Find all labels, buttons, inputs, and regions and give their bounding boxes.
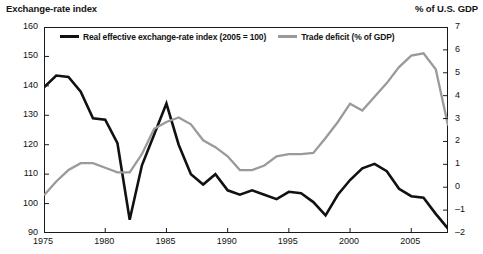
x-tick-label: 1985 (155, 236, 175, 246)
y-right-tick-label: 2 (455, 135, 483, 145)
y-right-tick-label: –1 (455, 204, 483, 214)
y-left-tick-label: 160 (8, 21, 38, 31)
y-left-tick-label: 110 (8, 168, 38, 178)
x-tick-label: 1980 (94, 236, 114, 246)
y-right-tick-label: 4 (455, 90, 483, 100)
y-right-tick-label: 6 (455, 44, 483, 54)
y-left-tick-label: 150 (8, 50, 38, 60)
y-right-tick-label: 7 (455, 21, 483, 31)
y-right-tick-label: 5 (455, 67, 483, 77)
y-left-tick-label: 130 (8, 109, 38, 119)
x-tick-label: 1995 (278, 236, 298, 246)
plot-area (44, 27, 448, 233)
y-left-tick-label: 140 (8, 80, 38, 90)
right-axis-title: % of U.S. GDP (415, 3, 478, 14)
left-axis-title: Exchange-rate index (6, 3, 97, 14)
y-right-tick-label: –2 (455, 227, 483, 237)
y-left-tick-label: 120 (8, 139, 38, 149)
exchange-rate-line (44, 76, 448, 229)
x-tick-label: 2000 (339, 236, 359, 246)
y-right-tick-label: 0 (455, 181, 483, 191)
x-tick-label: 2005 (400, 236, 420, 246)
y-right-tick-label: 1 (455, 158, 483, 168)
y-right-tick-label: 3 (455, 113, 483, 123)
chart-figure: Exchange-rate index % of U.S. GDP Real e… (0, 0, 483, 254)
x-tick-label: 1975 (33, 236, 53, 246)
chart-lines (44, 27, 448, 233)
x-tick-label: 1990 (217, 236, 237, 246)
y-left-tick-label: 100 (8, 198, 38, 208)
